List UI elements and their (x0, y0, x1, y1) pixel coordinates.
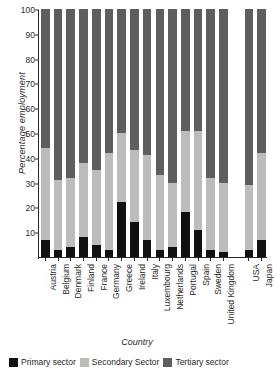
bar-segment-primary (66, 247, 75, 257)
stacked-bar (257, 9, 266, 257)
x-axis-tick-label: Italy (151, 264, 160, 280)
x-axis-tick-label: Spain (202, 264, 211, 286)
x-axis-tick-label: Austria (49, 264, 58, 290)
bar-segment-tertiary (54, 9, 63, 180)
x-axis-tick-mark (210, 257, 211, 261)
bar-segment-tertiary (66, 9, 75, 178)
bar-segment-secondary (41, 148, 50, 240)
bar-segment-secondary (257, 153, 266, 240)
stacked-bar (105, 9, 114, 257)
bar-segment-tertiary (92, 9, 101, 170)
x-axis-tick-label: Greece (125, 264, 134, 292)
chart-legend: Primary sectorSecondary SectorTertiary s… (9, 357, 267, 367)
y-axis-tick-label: 20 (26, 204, 35, 213)
bar-segment-tertiary (143, 9, 152, 155)
bar-segment-secondary (143, 155, 152, 239)
stacked-bar (156, 9, 165, 257)
bar-segment-tertiary (41, 9, 50, 148)
bar-segment-secondary (206, 178, 215, 250)
bar-segment-secondary (92, 170, 101, 244)
secondary-swatch-icon (80, 358, 89, 367)
bar-segment-secondary (245, 185, 254, 249)
bar-segment-primary (105, 250, 114, 257)
primary-swatch-icon (9, 358, 18, 367)
x-axis-tick-label: Japan (265, 264, 274, 287)
x-axis-tick-label: Denmark (74, 264, 83, 298)
bar-segment-tertiary (156, 9, 165, 175)
x-axis-tick-label: Portugal (189, 264, 198, 296)
bar-segment-secondary (194, 131, 203, 230)
bar-segment-primary (156, 250, 165, 257)
stacked-bar (117, 9, 126, 257)
bar-segment-tertiary (257, 9, 266, 153)
bar-segment-secondary (66, 178, 75, 247)
bar-segment-primary (206, 250, 215, 257)
bar-segment-primary (143, 240, 152, 257)
plot-area: 102030405060708090100 (38, 10, 267, 258)
legend-label: Secondary Sector (92, 357, 160, 367)
bar-segment-primary (219, 252, 228, 257)
bar-segment-secondary (168, 183, 177, 247)
bar-segment-tertiary (181, 9, 190, 131)
bar-segment-tertiary (206, 9, 215, 178)
y-axis-tick-label: 100 (21, 6, 35, 15)
x-axis-tick-label: Netherlands (176, 264, 185, 310)
legend-label: Tertiary sector (175, 357, 228, 367)
bar-segment-primary (245, 250, 254, 257)
stacked-bar (181, 9, 190, 257)
x-axis-tick-mark (147, 257, 148, 261)
x-axis-tick-labels: AustriaBelgiumDenmarkFinlandFranceGerman… (39, 264, 268, 330)
x-axis-tick-mark (45, 257, 46, 261)
bar-segment-secondary (105, 153, 114, 250)
x-axis-tick-mark (185, 257, 186, 261)
bar-segment-primary (130, 222, 139, 257)
bar-segment-secondary (54, 180, 63, 249)
bar-segment-secondary (181, 131, 190, 213)
bar-segment-primary (194, 230, 203, 257)
stacked-bar (245, 9, 254, 257)
x-axis-tick-mark (223, 257, 224, 261)
x-axis-tick-label: Sweden (214, 264, 223, 295)
y-axis-tick-label: 80 (26, 55, 35, 64)
bar-segment-primary (54, 250, 63, 257)
x-axis-tick-mark (172, 257, 173, 261)
bar-segment-secondary (117, 133, 126, 202)
stacked-bar (54, 9, 63, 257)
y-axis-tick-label: 60 (26, 105, 35, 114)
bar-segment-primary (257, 240, 266, 257)
bar-segment-tertiary (219, 9, 228, 183)
bar-segment-primary (168, 247, 177, 257)
x-axis-tick-mark (159, 257, 160, 261)
stacked-bar (92, 9, 101, 257)
bar-segment-tertiary (245, 9, 254, 185)
bar-segment-tertiary (117, 9, 126, 133)
x-axis-tick-mark (261, 257, 262, 261)
bar-segment-tertiary (168, 9, 177, 183)
bar-segment-tertiary (130, 9, 139, 150)
x-axis-tick-mark (134, 257, 135, 261)
bar-segment-secondary (130, 150, 139, 222)
x-axis-tick-label: USA (252, 264, 261, 281)
stacked-bar (130, 9, 139, 257)
bar-segment-secondary (156, 175, 165, 249)
legend-label: Primary sector (21, 357, 76, 367)
stacked-bar (79, 9, 88, 257)
bar-segment-primary (117, 202, 126, 257)
y-axis-tick-label: 40 (26, 155, 35, 164)
bar-segment-tertiary (79, 9, 88, 163)
y-axis-tick-label: 10 (26, 229, 35, 238)
legend-item: Secondary Sector (80, 357, 160, 367)
x-axis-tick-label: Germany (112, 264, 121, 299)
bar-group (39, 10, 267, 257)
stacked-bar (194, 9, 203, 257)
y-axis-tick-label: 90 (26, 31, 35, 40)
x-axis-title: Country (0, 337, 274, 347)
y-axis-tick-label: 30 (26, 179, 35, 188)
bar-segment-secondary (79, 163, 88, 237)
x-axis-tick-mark (248, 257, 249, 261)
y-axis-tick-label: 70 (26, 80, 35, 89)
x-axis-tick-label: France (100, 264, 109, 290)
stacked-bar (219, 9, 228, 257)
x-axis-line (38, 257, 267, 258)
bar-segment-tertiary (194, 9, 203, 131)
